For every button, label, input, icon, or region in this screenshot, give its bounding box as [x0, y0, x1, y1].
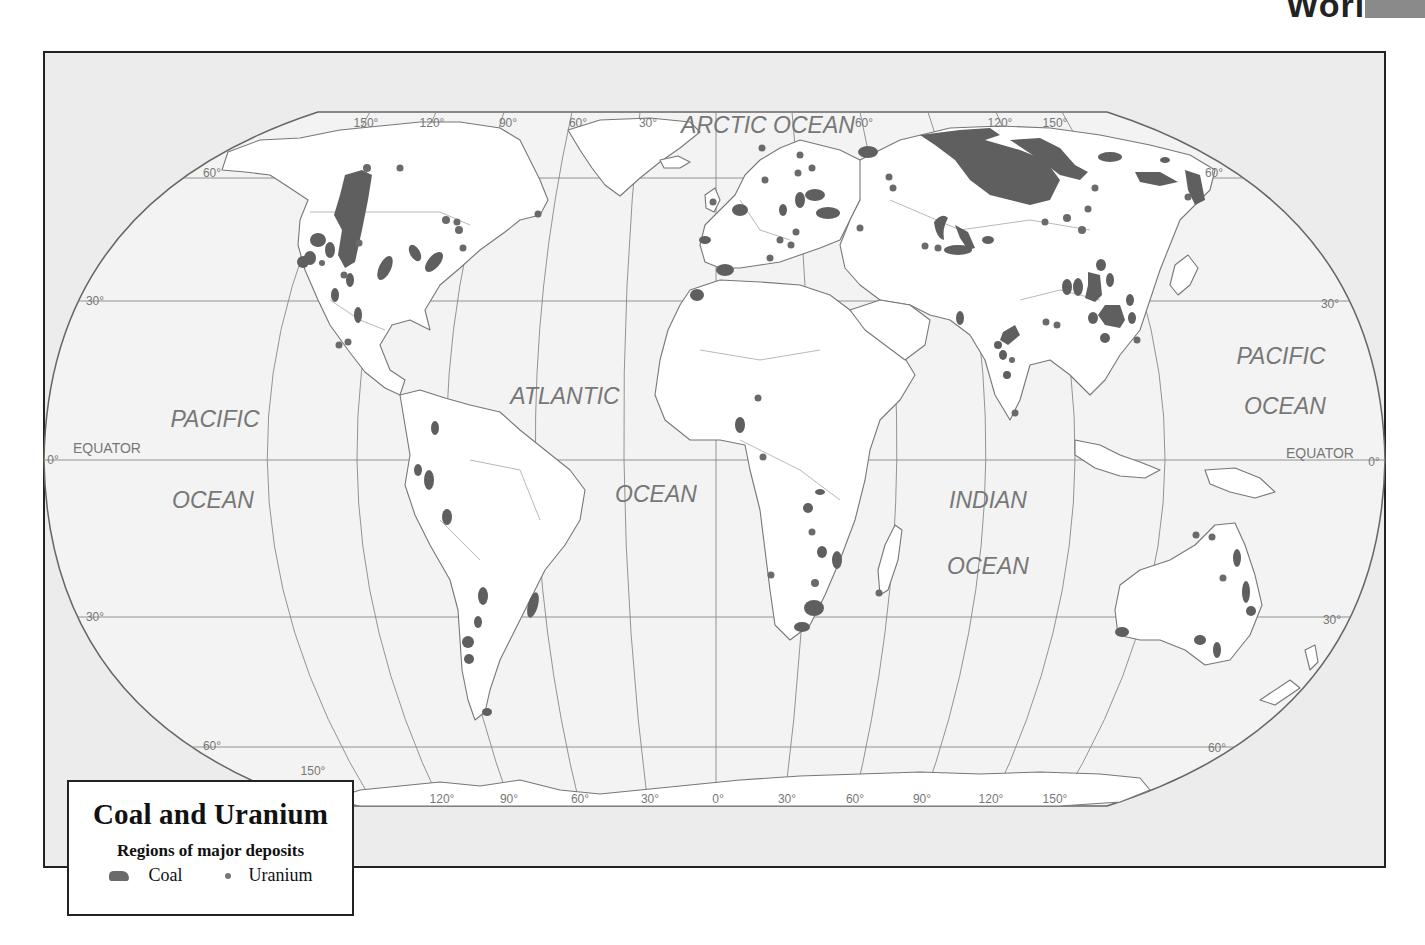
coal-deposit — [716, 264, 734, 276]
lon-label: 30° — [639, 116, 657, 130]
coal-deposit — [735, 417, 745, 433]
uranium-deposit — [922, 243, 929, 250]
coal-deposit — [1088, 312, 1098, 324]
coal-deposit — [331, 288, 339, 302]
coal-deposit — [815, 489, 825, 495]
uranium-deposit — [336, 342, 343, 349]
uranium-deposit — [363, 164, 371, 172]
coal-deposit — [462, 636, 474, 648]
lon-label: 90° — [500, 792, 518, 806]
lat-label: 30° — [1321, 297, 1339, 311]
coal-deposit — [354, 307, 362, 323]
lon-label: 120° — [979, 792, 1004, 806]
uranium-deposit — [809, 165, 816, 172]
legend-label-coal: Coal — [149, 865, 183, 886]
ocean-label-pacific-east: PACIFIC — [1236, 343, 1325, 369]
coal-deposit — [999, 350, 1007, 360]
uranium-deposit — [890, 185, 897, 192]
uranium-deposit — [759, 145, 766, 152]
uranium-deposit — [345, 339, 352, 346]
coal-deposit — [482, 708, 492, 716]
coal-deposit — [1246, 606, 1256, 616]
uranium-deposit — [767, 255, 774, 262]
coal-deposit — [414, 464, 422, 476]
uranium-dot-icon — [225, 873, 231, 879]
uranium-deposit — [341, 272, 348, 279]
coal-deposit — [858, 146, 878, 158]
coal-deposit — [1096, 259, 1106, 271]
equator-label-west: EQUATOR — [73, 440, 141, 456]
coal-deposit — [779, 204, 787, 216]
uranium-deposit — [795, 170, 802, 177]
coal-deposit — [1098, 152, 1122, 162]
lat-label: 60° — [203, 166, 221, 180]
lat-label: 60° — [1205, 166, 1223, 180]
legend-item-coal: Coal — [109, 865, 183, 886]
uranium-deposit — [1054, 322, 1061, 329]
uranium-deposit — [1209, 534, 1216, 541]
coal-deposit — [1194, 635, 1206, 645]
coal-deposit — [1160, 157, 1170, 163]
uranium-deposit — [1085, 206, 1092, 213]
lat-label: 30° — [1323, 613, 1341, 627]
uranium-deposit — [442, 216, 450, 224]
coal-deposit — [817, 546, 827, 558]
coal-deposit — [474, 616, 482, 628]
lon-label: 30° — [778, 792, 796, 806]
coal-deposit — [1003, 371, 1011, 379]
coal-deposit — [805, 189, 825, 201]
legend-subtitle: Regions of major deposits — [69, 841, 352, 861]
ocean-label-pacific-west: PACIFIC — [170, 406, 259, 432]
uranium-deposit — [797, 152, 804, 159]
coal-deposit — [732, 204, 748, 216]
equator-label-east: EQUATOR — [1286, 445, 1354, 461]
uranium-deposit — [1012, 410, 1019, 417]
lon-label: 90° — [913, 792, 931, 806]
lon-label: 60° — [846, 792, 864, 806]
legend-label-uranium: Uranium — [249, 865, 313, 886]
coal-deposit — [1073, 278, 1083, 296]
coal-deposit — [690, 289, 704, 301]
uranium-deposit — [397, 165, 404, 172]
uranium-deposit — [356, 240, 363, 247]
coal-deposit — [994, 341, 1002, 349]
lat-label: 0° — [47, 453, 59, 467]
lon-label: 30° — [641, 792, 659, 806]
uranium-deposit — [1043, 319, 1050, 326]
coal-deposit — [464, 654, 474, 664]
uranium-deposit — [710, 199, 717, 206]
uranium-deposit — [1134, 337, 1141, 344]
lat-label: 60° — [203, 739, 221, 753]
lon-label: 60° — [571, 792, 589, 806]
uranium-deposit — [793, 229, 800, 236]
coal-deposit — [803, 503, 813, 513]
coal-deposit — [424, 470, 434, 490]
uranium-deposit — [809, 529, 816, 536]
coal-deposit — [1128, 312, 1136, 324]
coal-deposit — [297, 256, 309, 268]
uranium-deposit — [455, 226, 463, 234]
uranium-deposit — [535, 211, 542, 218]
lon-label: 120° — [988, 116, 1013, 130]
lon-label: 150° — [1043, 792, 1068, 806]
coal-deposit — [1242, 581, 1250, 603]
lon-label: 120° — [420, 116, 445, 130]
uranium-deposit — [319, 260, 325, 266]
ocean-label-pacific-west-2: OCEAN — [172, 487, 254, 513]
uranium-deposit — [755, 395, 762, 402]
uranium-deposit — [811, 579, 819, 587]
uranium-deposit — [760, 454, 767, 461]
coal-deposit — [944, 245, 972, 255]
lon-label: 60° — [569, 116, 587, 130]
lat-label: 60° — [1208, 741, 1226, 755]
lon-label: 0° — [712, 792, 724, 806]
uranium-deposit — [768, 572, 775, 579]
ocean-label-arctic: ARCTIC OCEAN — [679, 112, 855, 138]
uranium-deposit — [935, 245, 942, 252]
uranium-deposit — [1078, 226, 1086, 234]
uranium-deposit — [1009, 357, 1015, 363]
lon-label: 90° — [499, 116, 517, 130]
uranium-deposit — [1063, 214, 1071, 222]
coal-deposit — [1233, 549, 1241, 567]
uranium-deposit — [1042, 219, 1049, 226]
